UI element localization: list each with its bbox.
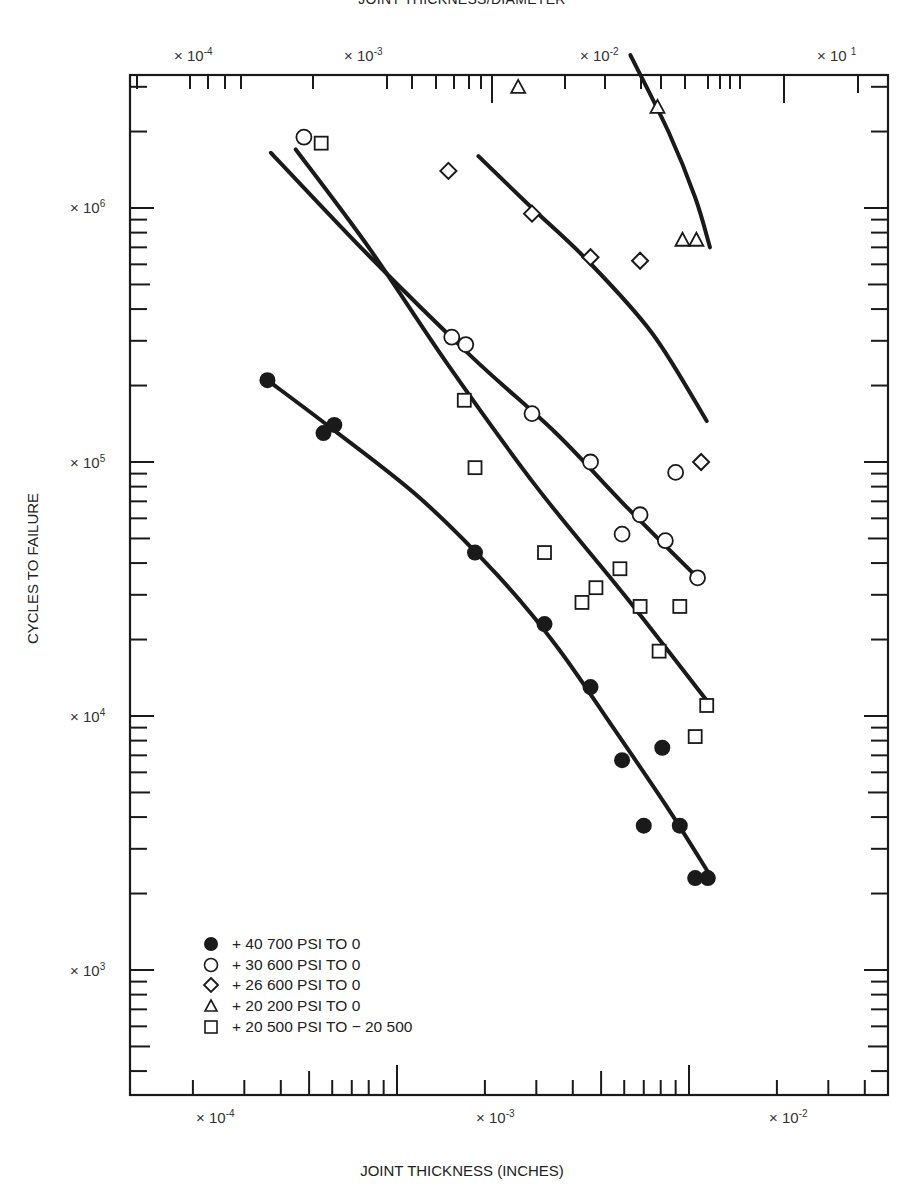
data-point-open-square <box>673 600 686 613</box>
data-point-open-circle <box>690 570 705 585</box>
data-point-open-diamond <box>440 163 456 179</box>
data-point-open-square <box>634 600 647 613</box>
data-point-open-circle <box>583 455 598 470</box>
open-circle-icon <box>200 956 222 974</box>
open-triangle-icon <box>200 997 222 1015</box>
data-point-open-diamond <box>524 206 540 222</box>
data-point-open-square <box>315 137 328 150</box>
legend-item: + 20 500 PSI TO − 20 500 <box>200 1016 412 1037</box>
data-point-open-circle <box>458 337 473 352</box>
data-point-open-square <box>613 562 626 575</box>
data-point-filled-circle <box>654 740 670 756</box>
data-point-open-triangle <box>511 80 525 93</box>
plot-area <box>0 0 924 1198</box>
open-diamond-icon <box>200 976 222 994</box>
fit-curve <box>267 380 708 873</box>
data-point-filled-circle <box>326 417 342 433</box>
data-point-open-square <box>653 645 666 658</box>
data-point-open-circle <box>658 533 673 548</box>
data-point-open-square <box>538 546 551 559</box>
filled-circle-icon <box>200 935 222 953</box>
data-point-filled-circle <box>259 372 275 388</box>
data-point-open-triangle <box>675 233 689 246</box>
data-point-open-triangle <box>689 233 703 246</box>
data-point-open-square <box>458 394 471 407</box>
data-point-filled-circle <box>467 545 483 561</box>
data-point-open-circle <box>296 130 311 145</box>
legend-item: + 30 600 PSI TO 0 <box>200 955 412 976</box>
data-point-open-circle <box>633 507 648 522</box>
data-point-open-circle <box>444 330 459 345</box>
data-point-open-square <box>589 581 602 594</box>
data-point-filled-circle <box>700 870 716 886</box>
data-point-filled-circle <box>537 616 553 632</box>
data-point-open-circle <box>525 406 540 421</box>
data-point-open-square <box>469 461 482 474</box>
data-point-open-square <box>689 730 702 743</box>
legend: + 40 700 PSI TO 0 + 30 600 PSI TO 0 + 26… <box>200 934 412 1037</box>
fit-curve <box>478 156 706 421</box>
data-point-filled-circle <box>672 818 688 834</box>
legend-item: + 20 200 PSI TO 0 <box>200 996 412 1017</box>
data-point-filled-circle <box>583 679 599 695</box>
data-point-open-diamond <box>632 253 648 269</box>
data-point-open-square <box>575 596 588 609</box>
legend-item: + 26 600 PSI TO 0 <box>200 975 412 996</box>
data-point-filled-circle <box>614 752 630 768</box>
fit-curve <box>630 55 710 247</box>
data-point-open-circle <box>615 527 630 542</box>
data-point-open-square <box>700 699 713 712</box>
data-point-open-diamond <box>693 454 709 470</box>
data-point-filled-circle <box>636 818 652 834</box>
data-point-open-circle <box>668 465 683 480</box>
open-square-icon <box>200 1018 222 1036</box>
legend-item: + 40 700 PSI TO 0 <box>200 934 412 955</box>
data-point-open-diamond <box>583 249 599 265</box>
fit-curve <box>296 149 707 700</box>
